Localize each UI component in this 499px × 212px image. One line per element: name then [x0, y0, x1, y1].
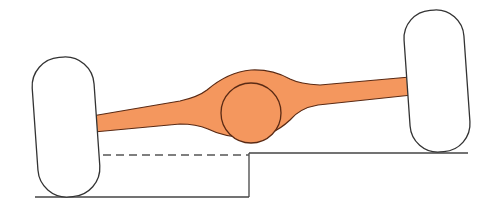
left-wheel — [30, 55, 102, 199]
right-wheel — [402, 8, 472, 154]
differential-housing — [221, 83, 281, 143]
axle-diagram — [0, 0, 499, 212]
